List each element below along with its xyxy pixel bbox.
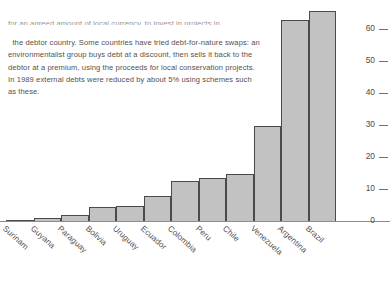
y-tick-mark	[379, 93, 388, 94]
y-tick-label: 30	[355, 119, 375, 129]
y-tick-label: 60	[355, 23, 375, 33]
bar-argentina	[281, 20, 309, 222]
y-tick-mark	[379, 29, 388, 30]
y-tick-label: 20	[355, 151, 375, 161]
x-tick-label-ecuador: Ecuador	[138, 224, 167, 252]
bar-brazil	[309, 11, 337, 222]
bar-peru	[199, 178, 227, 222]
caption-body: the debtor country. Some countries have …	[8, 38, 262, 96]
x-tick-label-bolivia: Bolivia	[83, 224, 107, 247]
y-tick-label: 50	[355, 55, 375, 65]
x-tick-label-peru: Peru	[193, 224, 212, 243]
y-tick-20: 20	[342, 157, 390, 158]
y-tick-mark	[379, 61, 388, 62]
x-tick-label-chile: Chile	[221, 224, 241, 244]
y-tick-mark	[379, 189, 388, 190]
x-tick-label-colombia: Colombia	[166, 224, 198, 254]
y-tick-60: 60	[342, 29, 390, 30]
caption-cut-line: for an agreed amount of local currency, …	[8, 18, 260, 25]
x-axis-tick-labels: SurinamGuyanaParaguayBoliviaUruguayEcuad…	[6, 224, 346, 283]
bar-colombia	[171, 181, 199, 222]
x-tick-label-guyana: Guyana	[28, 224, 56, 250]
y-axis: 0102030405060	[342, 0, 390, 240]
x-tick-label-brazil: Brazil	[303, 224, 325, 245]
bar-bolivia	[89, 207, 117, 222]
y-tick-label: 40	[355, 87, 375, 97]
x-tick-label-surinam: Surinam	[1, 224, 30, 252]
bar-ecuador	[144, 196, 172, 222]
y-tick-mark	[379, 157, 388, 158]
y-tick-0: 0	[342, 221, 390, 222]
x-axis-line	[0, 221, 390, 222]
bar-venezuela	[254, 126, 282, 222]
y-tick-label: 10	[355, 183, 375, 193]
y-tick-50: 50	[342, 61, 390, 62]
x-tick-label-paraguay: Paraguay	[56, 224, 89, 255]
caption-text-block: for an agreed amount of local currency, …	[8, 0, 260, 99]
x-tick-label-uruguay: Uruguay	[111, 224, 141, 252]
bar-chile	[226, 174, 254, 222]
y-tick-mark	[379, 125, 388, 126]
y-tick-label: 0	[355, 215, 375, 225]
y-tick-30: 30	[342, 125, 390, 126]
y-tick-10: 10	[342, 189, 390, 190]
y-tick-40: 40	[342, 93, 390, 94]
bar-uruguay	[116, 206, 144, 222]
